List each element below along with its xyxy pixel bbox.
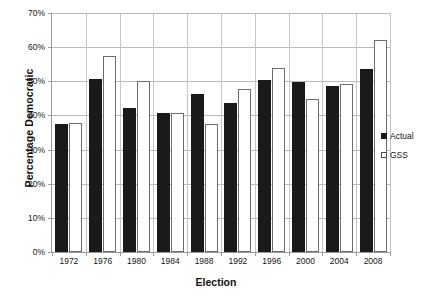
bar-gss-1972 (69, 123, 82, 252)
bar-gss-2000 (306, 99, 319, 252)
category-group: 2004 (322, 13, 356, 252)
y-axis-tick-label: 70% (28, 8, 45, 18)
x-axis-tick-label: 2000 (289, 256, 323, 266)
x-axis-tick-label: 1972 (52, 256, 86, 266)
x-axis-tick-label: 1988 (187, 256, 221, 266)
category-group: 1992 (221, 13, 255, 252)
plot-area: 0%10%20%30%40%50%60%70%19721976198019841… (51, 13, 390, 253)
legend-label: Actual (390, 131, 414, 141)
bar-actual-1988 (191, 94, 204, 252)
bar-actual-2008 (360, 69, 373, 252)
x-axis-title: Election (46, 276, 386, 288)
bar-gss-1980 (137, 81, 150, 252)
bar-gss-1992 (238, 89, 251, 252)
category-group: 1996 (255, 13, 289, 252)
bar-actual-1980 (123, 108, 136, 252)
category-group: 1984 (153, 13, 187, 252)
y-axis-tick-label: 60% (28, 42, 45, 52)
legend-label: GSS (390, 150, 408, 160)
x-axis-tick-mark (390, 252, 391, 256)
y-axis-tick-label: 10% (28, 213, 45, 223)
bar-gss-2004 (340, 84, 353, 252)
bar-actual-2004 (326, 86, 339, 252)
x-axis-tick-mark (52, 252, 53, 256)
bar-actual-1996 (258, 80, 271, 252)
x-axis-tick-label: 1976 (86, 256, 120, 266)
y-axis-tick-label: 20% (28, 179, 45, 189)
bar-actual-1976 (89, 79, 102, 252)
category-group: 1976 (86, 13, 120, 252)
bar-actual-2000 (292, 82, 305, 252)
bar-chart: Percentage Democratic 0%10%20%30%40%50%6… (0, 0, 424, 296)
x-axis-tick-label: 2004 (322, 256, 356, 266)
open-white-square-icon (381, 152, 387, 158)
legend-item-actual: Actual (381, 131, 414, 141)
x-axis-tick-label: 2008 (356, 256, 390, 266)
legend-item-gss: GSS (381, 150, 414, 160)
bar-gss-1988 (205, 124, 218, 252)
bar-actual-1984 (157, 113, 170, 252)
x-axis-tick-label: 1996 (255, 256, 289, 266)
y-axis-tick-label: 50% (28, 76, 45, 86)
x-axis-tick-label: 1984 (153, 256, 187, 266)
x-axis-tick-label: 1992 (221, 256, 255, 266)
category-group: 2000 (289, 13, 323, 252)
y-axis-tick-label: 0% (33, 247, 45, 257)
bar-gss-1996 (272, 68, 285, 252)
y-axis-title: Percentage Democratic (23, 23, 35, 233)
y-axis-tick-label: 30% (28, 145, 45, 155)
y-axis-tick-label: 40% (28, 110, 45, 120)
bar-actual-1992 (224, 103, 237, 252)
category-group: 1972 (52, 13, 86, 252)
x-axis-tick-label: 1980 (120, 256, 154, 266)
chart-legend: ActualGSS (381, 131, 414, 169)
category-group: 1988 (187, 13, 221, 252)
bar-actual-1972 (55, 124, 68, 252)
category-group: 1980 (120, 13, 154, 252)
filled-black-square-icon (381, 133, 387, 139)
bar-gss-1976 (103, 56, 116, 252)
bar-gss-1984 (171, 113, 184, 252)
